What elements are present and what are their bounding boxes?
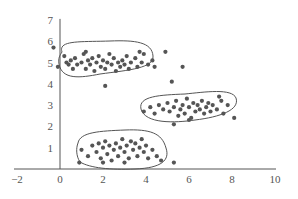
data-point [71, 67, 75, 71]
data-point [193, 109, 197, 113]
outliers [163, 50, 184, 84]
data-point [204, 105, 208, 109]
data-point [118, 146, 122, 150]
data-point [138, 50, 142, 54]
data-point [133, 141, 137, 145]
data-point [135, 65, 139, 69]
data-point [90, 144, 94, 148]
data-point [84, 67, 88, 71]
data-point [168, 109, 172, 113]
data-point [110, 158, 114, 162]
data-point [94, 150, 98, 154]
x-tick-label: 6 [186, 173, 192, 185]
data-point [101, 58, 105, 62]
data-point [97, 54, 101, 58]
data-point [118, 65, 122, 69]
data-points [51, 46, 236, 165]
data-point [138, 146, 142, 150]
data-point [103, 84, 107, 88]
data-point [142, 52, 146, 56]
data-point [153, 65, 157, 69]
data-point [202, 112, 206, 116]
data-point [178, 107, 182, 111]
y-tick-label: 7 [48, 14, 54, 26]
data-point [56, 65, 60, 69]
x-tick-label: 0 [57, 173, 63, 185]
data-point [86, 154, 90, 158]
y-tick-label: 2 [48, 120, 54, 132]
data-point [150, 58, 154, 62]
data-point [185, 97, 189, 101]
data-point [79, 148, 83, 152]
data-point [120, 137, 124, 141]
data-point [146, 63, 150, 67]
data-point [165, 101, 169, 105]
data-point [107, 52, 111, 56]
data-point [131, 148, 135, 152]
data-point [172, 161, 176, 165]
data-point [114, 69, 118, 73]
x-tick-label: −2 [11, 173, 23, 185]
data-point [90, 56, 94, 60]
x-tick-label: 8 [229, 173, 235, 185]
data-point [142, 109, 146, 113]
data-point [140, 137, 144, 141]
data-point [140, 60, 144, 64]
data-point [172, 105, 176, 109]
data-point [196, 103, 200, 107]
data-point [206, 101, 210, 105]
data-point [67, 63, 71, 67]
data-point [170, 80, 174, 84]
data-point [105, 152, 109, 156]
data-point [92, 69, 96, 73]
data-point [79, 60, 83, 64]
data-point [155, 154, 159, 158]
data-point [84, 50, 88, 54]
data-point [94, 60, 98, 64]
data-point [69, 58, 73, 62]
y-tick-label: 3 [48, 99, 54, 111]
data-point [107, 144, 111, 148]
y-tick-label: 6 [48, 35, 54, 47]
y-tick-label: 5 [48, 57, 54, 69]
data-point [215, 107, 219, 111]
data-point [120, 58, 124, 62]
data-point [200, 99, 204, 103]
data-point [86, 58, 90, 62]
data-point [125, 54, 129, 58]
data-point [146, 156, 150, 160]
outline-cluster-top-left [59, 41, 153, 77]
data-point [142, 150, 146, 154]
data-point [157, 103, 161, 107]
data-point [73, 56, 77, 60]
data-point [103, 67, 107, 71]
x-tick-label: 4 [143, 173, 149, 185]
data-point [176, 114, 180, 118]
data-point [103, 139, 107, 143]
data-point [217, 95, 221, 99]
data-point [150, 148, 154, 152]
data-point [133, 56, 137, 60]
y-tick-label: 1 [48, 142, 54, 154]
data-point [122, 161, 126, 165]
data-point [116, 60, 120, 64]
data-point [127, 156, 131, 160]
scatter-chart: −202468101234567 [0, 0, 298, 199]
data-point [211, 103, 215, 107]
data-point [127, 67, 131, 71]
y-tick-label: 4 [48, 78, 54, 90]
data-point [88, 63, 92, 67]
data-point [77, 161, 81, 165]
cluster-outlines [59, 41, 237, 169]
cluster-bottom [77, 137, 176, 165]
data-point [97, 141, 101, 145]
data-point [144, 144, 148, 148]
data-point [101, 161, 105, 165]
data-point [172, 122, 176, 126]
data-point [105, 60, 109, 64]
data-point [110, 63, 114, 67]
cluster-middle-right [142, 95, 237, 127]
data-point [232, 116, 236, 120]
data-point [99, 65, 103, 69]
data-point [99, 156, 103, 160]
